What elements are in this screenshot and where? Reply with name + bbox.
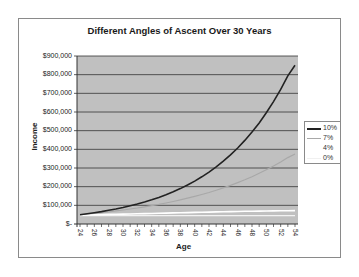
legend-swatch-10 [307, 128, 321, 130]
legend-item-7: 7% [307, 134, 341, 144]
legend: 10% 7% 4% 0% [304, 121, 341, 164]
legend-swatch-0 [307, 158, 321, 159]
legend-swatch-7 [307, 138, 321, 139]
legend-item-0: 0% [307, 154, 341, 164]
legend-swatch-4 [307, 148, 321, 150]
legend-label: 7% [323, 134, 333, 141]
legend-label: 10% [323, 124, 337, 131]
legend-label: 0% [323, 154, 333, 161]
legend-label: 4% [323, 144, 333, 151]
legend-item-4: 4% [307, 144, 341, 154]
legend-item-10: 10% [307, 124, 341, 134]
